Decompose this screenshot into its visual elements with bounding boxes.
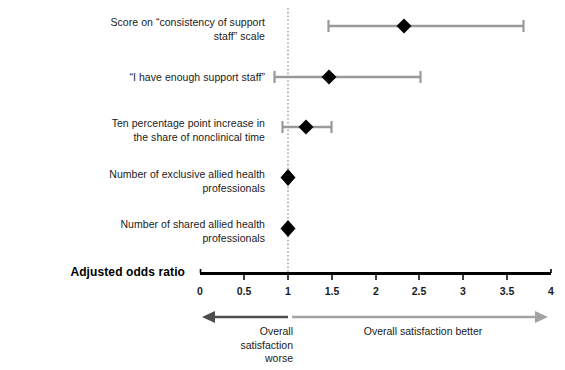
row-label-consistency-of-support-staff: Score on “consistency of support staff” …	[8, 15, 265, 43]
forest-plot-figure: Score on “consistency of support staff” …	[0, 0, 565, 370]
tick-label-2: 2	[362, 285, 390, 297]
tick-label-0: 0	[186, 285, 214, 297]
estimate-marker-row-5	[281, 220, 296, 237]
datapoint-row-3	[282, 120, 332, 135]
datapoint-row-1	[328, 19, 524, 34]
tick-label-4: 4	[537, 285, 565, 297]
datapoint-row-2	[274, 70, 421, 85]
worse-arrow-head	[202, 311, 215, 323]
row-label-nonclinical-time-share: Ten percentage point increase in the sha…	[8, 116, 265, 144]
datapoint-row-5	[281, 220, 296, 237]
x-axis	[200, 269, 551, 280]
better-arrow-head	[535, 311, 548, 323]
legend-overall-satisfaction-better: Overall satisfaction better	[303, 325, 543, 339]
estimate-marker-row-4	[281, 169, 296, 186]
tick-label-0-5: 0.5	[230, 285, 258, 297]
legend-overall-satisfaction-worse: Overall satisfaction worse	[185, 325, 293, 366]
tick-label-3-5: 3.5	[493, 285, 521, 297]
direction-arrows	[202, 311, 548, 323]
estimate-marker-row-3	[299, 120, 314, 135]
row-label-shared-allied-health-professionals: Number of shared allied health professio…	[8, 217, 265, 245]
row-label-exclusive-allied-health-professionals: Number of exclusive allied health profes…	[8, 167, 265, 195]
axis-title-adjusted-odds-ratio: Adjusted odds ratio	[8, 265, 185, 279]
estimate-marker-row-2	[322, 70, 337, 85]
row-label-enough-support-staff: “I have enough support staff”	[8, 70, 265, 84]
tick-label-2-5: 2.5	[405, 285, 433, 297]
tick-label-1: 1	[274, 285, 302, 297]
tick-label-1-5: 1.5	[318, 285, 346, 297]
estimate-marker-row-1	[397, 19, 412, 34]
axis-ticks	[244, 275, 507, 280]
tick-label-3: 3	[449, 285, 477, 297]
datapoint-row-4	[281, 169, 296, 186]
